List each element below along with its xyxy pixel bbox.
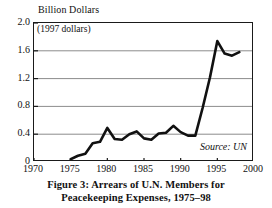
x-tick-label: 1975 (50, 164, 90, 174)
x-tick-label: 1980 (86, 164, 126, 174)
deflator-annotation: (1997 dollars) (37, 24, 91, 35)
figure-caption: Figure 3: Arrears of U.N. Members for Pe… (0, 178, 272, 204)
x-axis-tick-labels: 1970197519801985199019952000 (0, 164, 272, 178)
x-tick-label: 2000 (233, 164, 272, 174)
gridlines (34, 51, 253, 134)
source-annotation: Source: UN (200, 141, 247, 152)
y-tick-label: 0.4 (2, 128, 30, 138)
x-tick-label: 1995 (196, 164, 236, 174)
y-tick-label: 1.6 (2, 45, 30, 55)
y-axis-title: Billion Dollars (38, 4, 99, 15)
x-tick-label: 1970 (13, 164, 53, 174)
figure-container: Billion Dollars 00.40.81.21.62.0 (1997 d… (0, 0, 272, 208)
y-tick-label: 2.0 (2, 17, 30, 27)
y-tick-label: 0.8 (2, 100, 30, 110)
figure-caption-line-1: Figure 3: Arrears of U.N. Members for (0, 178, 272, 191)
figure-caption-line-2: Peacekeeping Expenses, 1975–98 (0, 191, 272, 204)
x-axis-tick-marks (34, 158, 253, 161)
x-tick-label: 1990 (160, 164, 200, 174)
y-axis-tick-marks (34, 23, 38, 161)
y-tick-label: 1.2 (2, 73, 30, 83)
plot-area: (1997 dollars) Source: UN (33, 22, 253, 161)
x-tick-label: 1985 (123, 164, 163, 174)
